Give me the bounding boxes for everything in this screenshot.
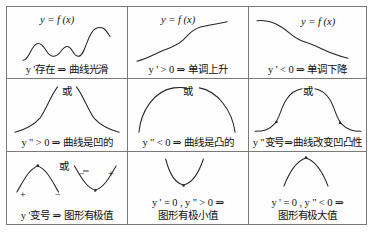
cell-caption: y ' = 0 , y " > 0 ⇒ 图形有极小值 <box>128 196 248 222</box>
cell-caption: y '存在 ⇒ 曲线光滑 <box>7 64 127 76</box>
sign-plus-left: + <box>20 190 26 200</box>
or-label: 或 <box>62 83 72 98</box>
cell-inflection: 或 y "变号⇒曲线改变凹凸性 <box>249 79 366 152</box>
cell-caption: y "变号⇒曲线改变凹凸性 <box>249 137 366 149</box>
or-label: 或 <box>183 83 193 98</box>
cell-caption: y " < 0 ⇒ 曲线是凸的 <box>128 137 248 149</box>
sign-minus-right: − <box>55 190 61 200</box>
cell-caption: y ' = 0 , y " < 0 ⇒ 图形有极大值 <box>249 196 366 222</box>
caption-line-1: y ' = 0 , y " < 0 ⇒ <box>249 196 366 209</box>
cell-local-maximum: y ' = 0 , y " < 0 ⇒ 图形有极大值 <box>249 152 366 224</box>
function-label: y = f (x) <box>40 14 74 25</box>
cell-concave-down: 或 y " < 0 ⇒ 曲线是凸的 <box>128 79 249 152</box>
cell-caption: y ' > 0 ⇒ 单调上升 <box>128 64 248 76</box>
function-label: y = f (x) <box>301 16 335 27</box>
cell-concave-up: 或 y " > 0 ⇒ 曲线是凹的 <box>7 79 128 152</box>
calculus-reference-table: y = f (x) y '存在 ⇒ 曲线光滑 y = f (x) y ' > 0… <box>6 6 367 225</box>
or-label: 或 <box>59 158 69 173</box>
caption-line-2: 图形有极小值 <box>128 209 248 222</box>
function-label: y = f (x) <box>161 14 195 25</box>
sign-minus-left: − <box>79 169 85 179</box>
caption-line-2: 图形有极大值 <box>249 209 366 222</box>
or-label: 或 <box>303 83 313 98</box>
cell-increasing: y = f (x) y ' > 0 ⇒ 单调上升 <box>128 7 249 79</box>
cell-caption: y ' < 0 ⇒ 单调下降 <box>249 64 366 76</box>
sign-plus-right: + <box>108 169 114 179</box>
caption-line-1: y ' = 0 , y " > 0 ⇒ <box>128 196 248 209</box>
cell-caption: y '变号 ⇒ 图形有极值 <box>7 210 127 222</box>
cell-derivative-exists: y = f (x) y '存在 ⇒ 曲线光滑 <box>7 7 128 79</box>
cell-extremum-sign-change: 或 + − − + y '变号 ⇒ 图形有极值 <box>7 152 128 224</box>
cell-decreasing: y = f (x) y ' < 0 ⇒ 单调下降 <box>249 7 366 79</box>
cell-local-minimum: y ' = 0 , y " > 0 ⇒ 图形有极小值 <box>128 152 249 224</box>
cell-caption: y " > 0 ⇒ 曲线是凹的 <box>7 137 127 149</box>
